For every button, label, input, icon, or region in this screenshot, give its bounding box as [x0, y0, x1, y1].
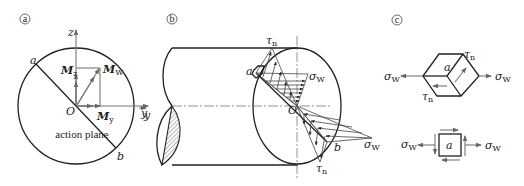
- sigma-bottom-label: σW: [364, 138, 381, 152]
- panel-c: c a σW σW τn τn a σW σW: [384, 14, 512, 160]
- panel-c-marker: c: [395, 14, 400, 25]
- cube-sigma-right-label: σW: [495, 70, 512, 84]
- mz-label: Mz: [60, 64, 77, 78]
- z-axis-label: z: [67, 26, 74, 39]
- panel-b-y-label: y: [140, 107, 148, 120]
- origin-label: O: [66, 105, 75, 118]
- point-b-label: b: [117, 150, 124, 163]
- cube-tau-lower-label: τn: [422, 90, 433, 104]
- cube-sigma-left-label: σW: [384, 70, 401, 84]
- square-label: a: [446, 139, 453, 152]
- panel-b-marker: b: [170, 13, 175, 24]
- tau-bottom-label: τn: [316, 162, 327, 176]
- mw-label: MW: [102, 63, 124, 77]
- cube-tau-upper-arrow: [455, 68, 466, 82]
- action-plane-label: action plane: [55, 128, 109, 140]
- panel-b-point-b: b: [334, 141, 341, 154]
- panel-a: a z y a b Mz MW My O action plane: [18, 13, 151, 164]
- square-sigma-right-label: σW: [485, 139, 502, 153]
- cube-tau-upper-label: τn: [464, 48, 475, 62]
- stress-diagram: a z y a b Mz MW My O action plane b: [0, 0, 524, 186]
- point-a-label: a: [30, 54, 37, 67]
- panel-b-origin: O: [288, 104, 297, 117]
- upper-sigma-distribution: [256, 73, 308, 106]
- panel-a-marker: a: [23, 13, 28, 24]
- cube-edge-bottom: [447, 76, 461, 96]
- mw-vector-inner: [77, 77, 94, 105]
- panel-b-point-a: a: [246, 65, 253, 78]
- cube-label: a: [444, 61, 451, 74]
- panel-b: b y: [139, 13, 381, 178]
- cylinder-left-break-top: [163, 48, 172, 106]
- my-label: My: [96, 110, 114, 124]
- element-a-cube: [252, 66, 264, 78]
- tau-top-label: τn: [266, 34, 277, 48]
- sigma-top-label: σW: [309, 70, 326, 84]
- square-sigma-left-label: σW: [401, 138, 418, 152]
